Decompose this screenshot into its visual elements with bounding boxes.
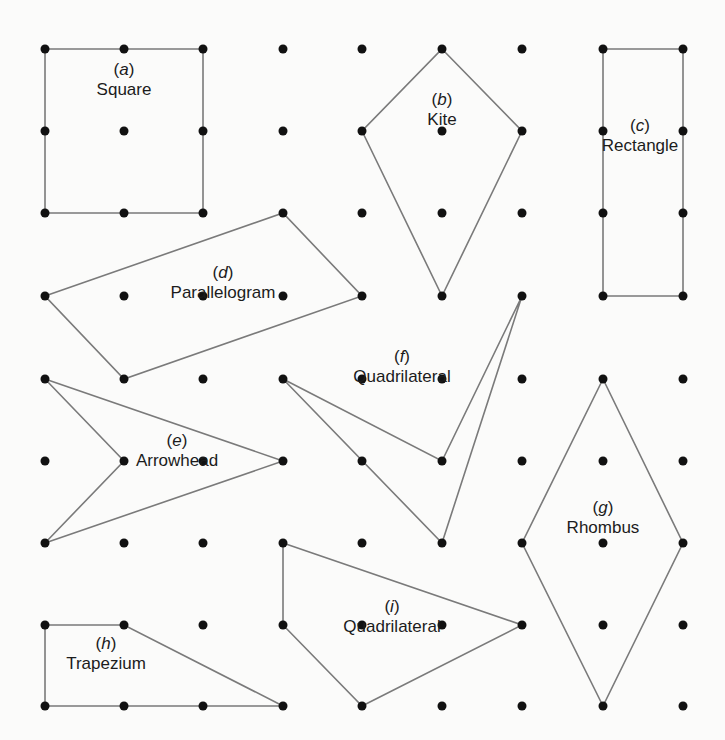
grid-dot — [679, 209, 688, 218]
grid-dot — [41, 539, 50, 548]
label-name: Square — [97, 80, 152, 99]
label-tag: (a) — [97, 60, 152, 80]
grid-dot — [358, 457, 367, 466]
grid-dot — [41, 127, 50, 136]
grid-dot — [599, 45, 608, 54]
grid-dot — [679, 292, 688, 301]
shape-kite-b — [362, 49, 522, 296]
grid-dot — [279, 457, 288, 466]
grid-dot — [199, 127, 208, 136]
label-tag: (e) — [136, 431, 218, 451]
grid-dot — [599, 375, 608, 384]
grid-dot — [438, 209, 447, 218]
grid-dot — [41, 45, 50, 54]
grid-dot — [599, 621, 608, 630]
grid-dot — [679, 539, 688, 548]
shape-quadrilateral-f — [283, 296, 522, 543]
grid-dot — [679, 621, 688, 630]
grid-dot — [599, 539, 608, 548]
shape-rectangle-c — [603, 49, 683, 296]
grid-dot — [199, 621, 208, 630]
label-quadrilateral-f: (f) Quadrilateral — [353, 347, 450, 387]
label-tag: (h) — [66, 634, 146, 654]
label-parallelogram: (d) Parallelogram — [171, 263, 276, 303]
grid-dot — [41, 621, 50, 630]
grid-dot — [120, 539, 129, 548]
grid-dot — [279, 621, 288, 630]
grid-dot — [199, 45, 208, 54]
grid-dot — [518, 457, 527, 466]
grid-dot — [518, 45, 527, 54]
grid-dot — [599, 292, 608, 301]
grid-dot — [41, 457, 50, 466]
grid-dot — [679, 45, 688, 54]
label-square: (a) Square — [97, 60, 152, 100]
grid-dot — [41, 375, 50, 384]
grid-dot — [679, 457, 688, 466]
grid-dot — [279, 127, 288, 136]
grid-dot — [120, 457, 129, 466]
grid-dot — [438, 539, 447, 548]
grid-dot — [358, 209, 367, 218]
label-tag: (g) — [567, 498, 640, 518]
label-kite: (b) Kite — [427, 90, 456, 130]
grid-dot — [279, 209, 288, 218]
grid-dot — [518, 209, 527, 218]
grid-dot — [358, 702, 367, 711]
grid-dot — [41, 209, 50, 218]
label-name: Parallelogram — [171, 283, 276, 302]
grid-dot — [358, 127, 367, 136]
label-tag: (d) — [171, 263, 276, 283]
grid-dot — [199, 209, 208, 218]
label-rhombus: (g) Rhombus — [567, 498, 640, 538]
grid-dot — [679, 127, 688, 136]
grid-dot — [438, 702, 447, 711]
grid-dot — [120, 702, 129, 711]
grid-dot — [599, 457, 608, 466]
label-name: Quadrilateral — [343, 617, 440, 636]
grid-dot — [199, 539, 208, 548]
grid-dot — [120, 292, 129, 301]
grid-dot — [358, 539, 367, 548]
grid-dot — [199, 702, 208, 711]
label-name: Trapezium — [66, 654, 146, 673]
label-tag: (f) — [353, 347, 450, 367]
grid-dot — [120, 209, 129, 218]
grid-dot — [518, 292, 527, 301]
label-name: Kite — [427, 110, 456, 129]
grid-dot — [41, 292, 50, 301]
grid-dot — [679, 375, 688, 384]
grid-dot — [120, 375, 129, 384]
grid-dot — [518, 127, 527, 136]
label-tag: (b) — [427, 90, 456, 110]
label-name: Quadrilateral — [353, 367, 450, 386]
label-rectangle: (c) Rectangle — [602, 116, 679, 156]
grid-dot — [438, 45, 447, 54]
grid-dot — [279, 292, 288, 301]
label-trapezium: (h) Trapezium — [66, 634, 146, 674]
grid-dot — [358, 292, 367, 301]
label-name: Rhombus — [567, 518, 640, 537]
grid-dot — [199, 375, 208, 384]
grid-dot — [279, 702, 288, 711]
grid-dot — [599, 209, 608, 218]
label-name: Arrowhead — [136, 451, 218, 470]
grid-dot — [438, 457, 447, 466]
label-quadrilateral-i: (i) Quadrilateral — [343, 597, 440, 637]
grid-dot — [518, 375, 527, 384]
label-name: Rectangle — [602, 136, 679, 155]
grid-dot — [518, 539, 527, 548]
grid-dot — [279, 375, 288, 384]
grid-dot — [279, 45, 288, 54]
grid-dot — [41, 702, 50, 711]
grid-dot — [120, 621, 129, 630]
grid-dot — [120, 45, 129, 54]
grid-dot — [358, 45, 367, 54]
grid-dot — [279, 539, 288, 548]
grid-dot — [518, 702, 527, 711]
grid-dot — [120, 127, 129, 136]
grid-dot — [438, 292, 447, 301]
grid-dot — [599, 702, 608, 711]
label-arrowhead: (e) Arrowhead — [136, 431, 218, 471]
grid-dot — [518, 621, 527, 630]
